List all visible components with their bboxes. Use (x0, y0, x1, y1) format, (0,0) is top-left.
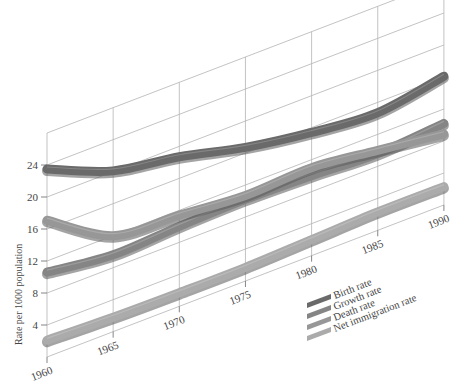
x-tick-label: 1975 (228, 288, 253, 307)
x-tick-label: 1970 (161, 313, 186, 332)
legend-swatch (307, 305, 331, 319)
x-tick-label: 1990 (426, 212, 451, 231)
chart-canvas: 48121620241960196519701975198019851990 R… (0, 0, 472, 385)
legend: Birth rateGrowth rateDeath rateNet immig… (307, 276, 418, 341)
y-tick-label: 8 (33, 287, 39, 299)
legend-swatch (307, 327, 331, 341)
y-tick-label: 12 (27, 255, 38, 267)
y-tick-label: 4 (33, 319, 39, 331)
x-tick-label: 1960 (29, 364, 54, 383)
x-tick-label: 1985 (360, 237, 385, 256)
x-tick-label: 1980 (294, 262, 319, 281)
legend-swatch (307, 294, 331, 308)
y-tick-label: 24 (27, 159, 39, 171)
y-tick-label: 16 (27, 223, 39, 235)
x-tick-label: 1965 (95, 338, 120, 357)
legend-swatch (307, 316, 331, 330)
y-tick-label: 20 (27, 191, 39, 203)
y-axis-title: Rate per 1000 population (13, 244, 24, 345)
